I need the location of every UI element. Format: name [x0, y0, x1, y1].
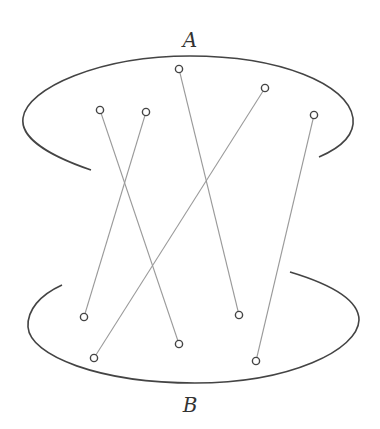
set-b-label: B — [182, 393, 198, 417]
vertex-b1 — [80, 313, 87, 320]
edge-a1-b3 — [100, 110, 179, 344]
set-a-label: A — [181, 28, 197, 52]
edge-a3-b4 — [179, 69, 239, 315]
vertex-a1 — [96, 106, 103, 113]
vertex-b2 — [90, 354, 97, 361]
edge-a2-b1 — [84, 112, 146, 317]
vertices — [80, 65, 317, 364]
vertex-b4 — [235, 311, 242, 318]
vertex-a3 — [175, 65, 182, 72]
set-b-boundary — [28, 272, 359, 383]
bipartite-diagram: A B — [0, 0, 380, 429]
vertex-a2 — [142, 108, 149, 115]
set-a-boundary — [23, 56, 353, 170]
vertex-a4 — [261, 84, 268, 91]
matching-edges — [84, 69, 314, 361]
vertex-b3 — [175, 340, 182, 347]
edge-a5-b5 — [256, 115, 314, 361]
vertex-a5 — [310, 111, 317, 118]
vertex-b5 — [252, 357, 259, 364]
